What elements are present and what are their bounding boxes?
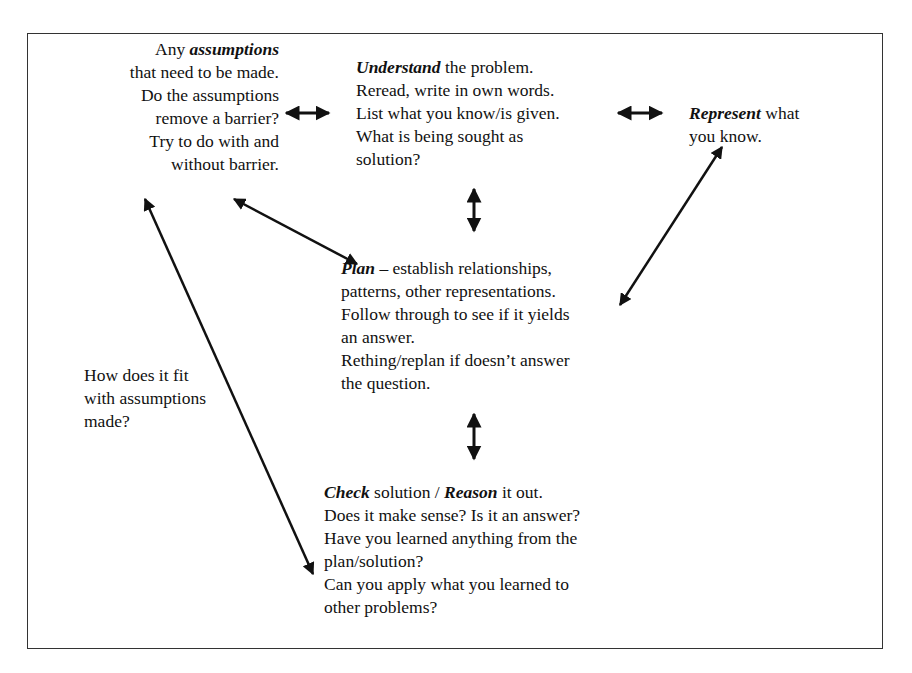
assumptions-line: remove a barrier? <box>130 107 279 130</box>
plan-node: Plan – establish relationships, patterns… <box>341 257 570 395</box>
fit-line: made? <box>84 410 206 433</box>
understand-line: List what you know/is given. <box>356 102 560 125</box>
assumptions-prefix: Any <box>155 39 190 59</box>
represent-line: you know. <box>689 125 799 148</box>
assumptions-keyword: assumptions <box>190 39 279 59</box>
plan-line: Rething/replan if doesn’t answer <box>341 349 570 372</box>
assumptions-node: Any assumptions that need to be made. Do… <box>130 38 279 176</box>
fit-line: with assumptions <box>84 387 206 410</box>
check-keyword: Check <box>324 482 370 502</box>
plan-line: an answer. <box>341 326 570 349</box>
plan-line: the question. <box>341 372 570 395</box>
plan-line: patterns, other representations. <box>341 280 570 303</box>
understand-line: What is being sought as <box>356 125 560 148</box>
plan-line: Follow through to see if it yields <box>341 303 570 326</box>
understand-suffix: the problem. <box>441 57 534 77</box>
plan-suffix: – establish relationships, <box>375 258 552 278</box>
check-line: Does it make sense? Is it an answer? <box>324 504 580 527</box>
assumptions-line: Try to do with and <box>130 130 279 153</box>
check-line: plan/solution? <box>324 550 580 573</box>
assumptions-line: Do the assumptions <box>130 84 279 107</box>
check-line: Can you apply what you learned to <box>324 573 580 596</box>
fit-line: How does it fit <box>84 364 206 387</box>
represent-node: Represent what you know. <box>689 102 799 148</box>
check-line: Have you learned anything from the <box>324 527 580 550</box>
check-line: other problems? <box>324 596 580 619</box>
fit-node: How does it fit with assumptions made? <box>84 364 206 433</box>
understand-line: Reread, write in own words. <box>356 79 560 102</box>
understand-keyword: Understand <box>356 57 441 77</box>
assumptions-line: without barrier. <box>130 153 279 176</box>
plan-keyword: Plan <box>341 258 375 278</box>
assumptions-line: that need to be made. <box>130 61 279 84</box>
reason-keyword: Reason <box>444 482 497 502</box>
understand-line: solution? <box>356 148 560 171</box>
represent-keyword: Represent <box>689 103 761 123</box>
check-node: Check solution / Reason it out. Does it … <box>324 481 580 619</box>
check-mid: solution / <box>370 482 444 502</box>
understand-node: Understand the problem. Reread, write in… <box>356 56 560 171</box>
check-suffix: it out. <box>498 482 543 502</box>
represent-suffix: what <box>761 103 799 123</box>
